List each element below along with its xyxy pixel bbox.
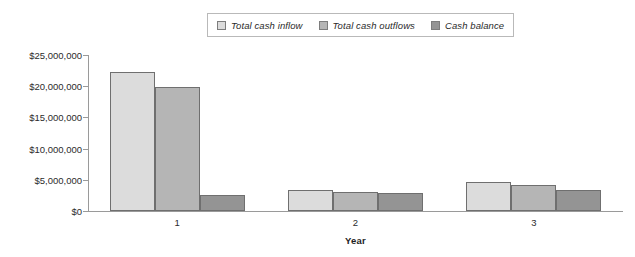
legend-item-total-cash-inflow[interactable]: Total cash inflow [217, 20, 303, 31]
x-axis-tick-label: 3 [531, 217, 536, 228]
legend-swatch-icon [319, 21, 328, 30]
x-axis-title: Year [88, 235, 623, 246]
y-axis-tick-label: $15,000,000 [4, 112, 82, 123]
bar[interactable] [466, 182, 511, 211]
plot-area: $0$5,000,000$10,000,000$15,000,000$20,00… [88, 55, 623, 211]
legend-swatch-icon [217, 21, 226, 30]
y-axis-tick [83, 149, 88, 150]
y-axis-tick-label: $25,000,000 [4, 50, 82, 61]
x-axis-tick-label: 2 [353, 217, 358, 228]
y-axis-line [88, 55, 89, 212]
y-axis-tick [83, 180, 88, 181]
chart-legend: Total cash inflow Total cash outflows Ca… [207, 13, 514, 37]
bar[interactable] [288, 190, 333, 211]
bar[interactable] [333, 192, 378, 211]
y-axis-tick [83, 86, 88, 87]
bar[interactable] [556, 190, 601, 211]
x-axis-line [88, 211, 623, 212]
legend-item-cash-balance[interactable]: Cash balance [431, 20, 504, 31]
legend-item-label: Total cash outflows [333, 20, 415, 31]
bar-chart: Total cash inflow Total cash outflows Ca… [0, 0, 635, 257]
x-axis-tick-label: 1 [175, 217, 180, 228]
y-axis-tick [83, 211, 88, 212]
y-axis-tick-label: $0 [4, 206, 82, 217]
bar[interactable] [511, 185, 556, 211]
y-axis-tick-label: $5,000,000 [4, 174, 82, 185]
legend-item-label: Total cash inflow [231, 20, 303, 31]
legend-swatch-icon [431, 21, 440, 30]
bar[interactable] [155, 87, 200, 211]
y-axis-tick [83, 117, 88, 118]
legend-item-label: Cash balance [445, 20, 504, 31]
bar[interactable] [110, 72, 155, 211]
y-axis-tick [83, 55, 88, 56]
legend-item-total-cash-outflows[interactable]: Total cash outflows [319, 20, 415, 31]
bar[interactable] [200, 195, 245, 211]
bar[interactable] [378, 193, 423, 211]
y-axis-tick-label: $10,000,000 [4, 143, 82, 154]
y-axis-tick-label: $20,000,000 [4, 81, 82, 92]
